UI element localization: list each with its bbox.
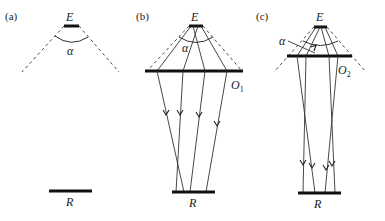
panel-c-arrow-1-icon bbox=[300, 160, 306, 165]
panel-a-label: (a) bbox=[5, 10, 18, 23]
panel-a-receiver-label: R bbox=[65, 195, 74, 209]
panel-b-ray-3-upper bbox=[193, 26, 205, 71]
panel-c: (c) E α O2 R bbox=[256, 10, 366, 211]
panel-c-arrow-3-icon bbox=[323, 165, 329, 170]
panel-c-angle-label: α bbox=[279, 34, 286, 48]
panel-b-optic-subscript: 1 bbox=[240, 85, 244, 94]
panel-a-angle-label: α bbox=[67, 44, 74, 58]
panel-b-ray-3-lower bbox=[190, 71, 205, 192]
panel-b-ray-4-upper bbox=[201, 26, 227, 71]
panel-c-arrow-2-icon bbox=[309, 163, 315, 168]
panel-c-receiver-label: R bbox=[313, 197, 322, 211]
panel-a-source-label: E bbox=[65, 10, 74, 24]
panel-c-label: (c) bbox=[256, 10, 269, 23]
panel-b-ray-4-lower bbox=[206, 71, 227, 192]
panel-c-ray-3-upper bbox=[321, 27, 329, 56]
panel-a-fov-right-edge bbox=[79, 26, 119, 72]
panel-b-arrow-2-icon bbox=[177, 110, 183, 115]
panel-a-fov-left-edge bbox=[22, 26, 64, 72]
panel-b-arrow-4-icon bbox=[214, 121, 220, 126]
panel-b-optic-label: O1 bbox=[231, 78, 244, 94]
panel-c-source-label: E bbox=[315, 10, 324, 24]
panel-b-arrow-3-icon bbox=[196, 112, 202, 117]
panel-c-ray-4-lower bbox=[325, 56, 338, 193]
panel-b: (b) E α O1 R bbox=[136, 10, 244, 210]
panel-c-ray-3-lower bbox=[329, 56, 335, 193]
panel-b-fov-right-edge bbox=[203, 26, 242, 71]
panel-b-source-label: E bbox=[190, 10, 199, 24]
panel-c-optic-subscript: 2 bbox=[347, 70, 351, 79]
panel-c-angle-pointer-icon bbox=[311, 45, 316, 51]
panel-b-receiver-label: R bbox=[188, 196, 197, 210]
panel-b-angle-label: α bbox=[182, 41, 189, 55]
panel-a-angle-arc bbox=[55, 36, 88, 42]
panel-b-label: (b) bbox=[136, 10, 149, 23]
panel-a: (a) E α R bbox=[5, 10, 119, 209]
panel-b-optic-letter: O bbox=[231, 78, 240, 92]
panel-c-optic-letter: O bbox=[338, 63, 347, 77]
optics-diagram: (a) E α R (b) E α O1 bbox=[0, 0, 385, 221]
panel-c-optic-label: O2 bbox=[338, 63, 351, 79]
